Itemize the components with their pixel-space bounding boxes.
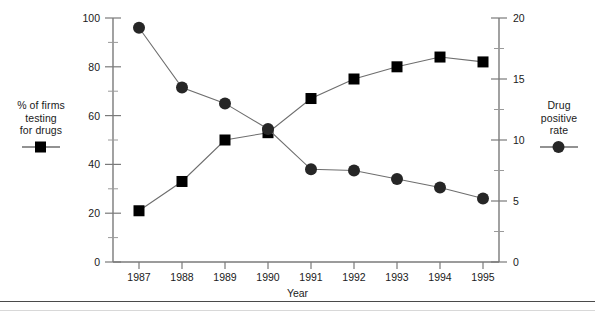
drug-positive-rate-point bbox=[477, 193, 489, 205]
page-divider-rule bbox=[0, 301, 595, 302]
legend-left-line1: % of firms bbox=[6, 99, 76, 112]
drug-positive-rate-point bbox=[176, 82, 188, 94]
series-percent-firms-testing bbox=[134, 52, 489, 217]
legend-right-line2: positive bbox=[528, 112, 590, 125]
left-y-axis: 100 80 60 40 20 0 bbox=[82, 12, 121, 268]
legend-right-swatch bbox=[528, 140, 590, 154]
legend-percent-firms-testing: % of firms testing for drugs bbox=[6, 99, 76, 154]
x-tick-label: 1987 bbox=[127, 271, 151, 283]
x-tick-label: 1989 bbox=[213, 271, 237, 283]
percent-firms-testing-point bbox=[306, 93, 317, 104]
chart-plot-area: 100 80 60 40 20 0 20 15 10 5 0 bbox=[0, 0, 595, 314]
right-y-axis: 20 15 10 5 0 bbox=[491, 12, 525, 268]
percent-firms-testing-point bbox=[134, 205, 145, 216]
page-divider-rule-secondary bbox=[0, 310, 595, 311]
x-tick-label: 1993 bbox=[385, 271, 409, 283]
x-tick-label: 1995 bbox=[471, 271, 495, 283]
drug-positive-rate-point bbox=[219, 97, 231, 109]
drug-positive-rate-point bbox=[348, 165, 360, 177]
percent-firms-testing-point bbox=[478, 56, 489, 67]
left-tick-label: 40 bbox=[88, 158, 100, 170]
left-tick-label: 20 bbox=[88, 207, 100, 219]
percent-firms-testing-point bbox=[349, 74, 360, 85]
right-tick-label: 20 bbox=[513, 12, 525, 24]
x-axis: 1987 1988 1989 1990 1991 1992 1993 1994 … bbox=[113, 262, 499, 283]
circle-marker-icon bbox=[537, 140, 581, 154]
right-tick-label: 10 bbox=[513, 134, 525, 146]
legend-right-line1: Drug bbox=[528, 99, 590, 112]
left-tick-label: 80 bbox=[88, 61, 100, 73]
percent-firms-testing-line bbox=[139, 57, 483, 211]
percent-firms-testing-point bbox=[220, 135, 231, 146]
x-tick-label: 1991 bbox=[299, 271, 323, 283]
legend-drug-positive-rate: Drug positive rate bbox=[528, 99, 590, 154]
right-tick-label: 0 bbox=[513, 256, 519, 268]
percent-firms-testing-point bbox=[435, 52, 446, 63]
x-axis-title: Year bbox=[0, 287, 595, 299]
left-tick-label: 100 bbox=[82, 12, 100, 24]
x-tick-label: 1988 bbox=[170, 271, 194, 283]
right-tick-label: 15 bbox=[513, 73, 525, 85]
x-tick-label: 1994 bbox=[428, 271, 452, 283]
percent-firms-testing-point bbox=[392, 61, 403, 72]
square-marker-icon bbox=[19, 140, 63, 154]
drug-positive-rate-point bbox=[133, 22, 145, 34]
left-tick-label: 0 bbox=[94, 256, 100, 268]
legend-left-line2: testing bbox=[6, 112, 76, 125]
x-tick-label: 1990 bbox=[256, 271, 280, 283]
left-tick-label: 60 bbox=[88, 110, 100, 122]
drug-positive-rate-point bbox=[305, 163, 317, 175]
drug-positive-rate-point bbox=[391, 173, 403, 185]
drug-positive-rate-point bbox=[262, 123, 274, 135]
percent-firms-testing-point bbox=[177, 176, 188, 187]
legend-left-swatch bbox=[6, 140, 76, 154]
legend-left-line3: for drugs bbox=[6, 124, 76, 137]
chart-container: 100 80 60 40 20 0 20 15 10 5 0 bbox=[0, 0, 595, 314]
drug-positive-rate-point bbox=[434, 182, 446, 194]
right-tick-label: 5 bbox=[513, 195, 519, 207]
legend-right-line3: rate bbox=[528, 124, 590, 137]
x-tick-label: 1992 bbox=[342, 271, 366, 283]
